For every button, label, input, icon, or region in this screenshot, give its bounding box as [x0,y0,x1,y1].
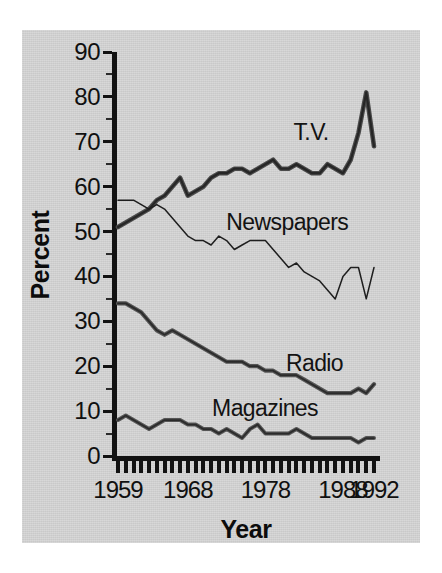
chart-figure: Percent Year 0102030405060708090 1959196… [0,0,442,573]
y-tick-label-20: 20 [74,354,100,378]
y-tick-label-80: 80 [74,85,100,109]
y-tick-10 [103,410,112,413]
y-tick-50 [103,230,112,233]
y-tick-label-90: 90 [74,40,100,64]
series-label-magazines: Magazines [212,397,318,420]
line-radio [118,303,374,393]
y-tick-label-40: 40 [74,264,100,288]
y-tick-0 [103,455,112,458]
plot-area: 0102030405060708090 19591968197819881992… [112,52,380,460]
series-label-radio: Radio [286,352,343,375]
line-radio-core [118,303,374,393]
y-tick-label-30: 30 [74,309,100,333]
x-tick-label-1959: 1959 [93,478,142,502]
y-tick-label-50: 50 [74,220,100,244]
y-tick-20 [103,365,112,368]
x-axis-title: Year [112,515,380,544]
y-tick-70 [103,140,112,143]
x-tick-label-1968: 1968 [163,478,212,502]
x-tick-label-1978: 1978 [241,478,290,502]
y-tick-label-0: 0 [87,444,100,468]
y-tick-60 [103,185,112,188]
y-tick-80 [103,95,112,98]
y-axis-title: Percent [26,211,55,300]
series-label-newspapers: Newspapers [226,211,348,234]
y-tick-label-60: 60 [74,175,100,199]
y-tick-90 [103,51,112,54]
y-tick-40 [103,275,112,278]
y-tick-label-10: 10 [74,399,100,423]
y-tick-30 [103,320,112,323]
x-tick-label-1992: 1992 [349,478,398,502]
series-label-tv: T.V. [293,121,328,144]
line-tv [118,92,374,227]
line-tv-core [118,92,374,227]
y-tick-label-70: 70 [74,130,100,154]
